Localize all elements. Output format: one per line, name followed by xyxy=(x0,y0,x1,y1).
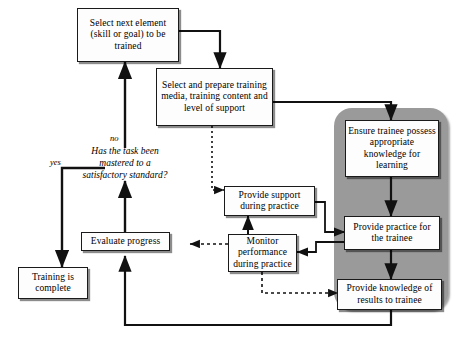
node-monitor-performance-label: Monitor performance during practice xyxy=(231,236,294,271)
node-monitor-performance[interactable]: Monitor performance during practice xyxy=(228,234,297,272)
node-evaluate-progress-label: Evaluate progress xyxy=(91,236,161,248)
edge-label-yes: yes xyxy=(50,157,61,167)
node-ensure-trainee-knowledge[interactable]: Ensure trainee possess appropriate knowl… xyxy=(345,120,439,177)
node-evaluate-progress[interactable]: Evaluate progress xyxy=(81,232,170,251)
node-training-is-complete[interactable]: Training is complete xyxy=(18,267,88,299)
node-provide-support-label: Provide support during practice xyxy=(227,190,312,213)
node-select-next-element[interactable]: Select next element (skill or goal) to b… xyxy=(77,8,179,62)
node-training-is-complete-label: Training is complete xyxy=(21,272,85,295)
decision-mastery-question: Has the task been mastered to a satisfac… xyxy=(78,145,172,181)
node-ensure-trainee-knowledge-label: Ensure trainee possess appropriate knowl… xyxy=(348,126,436,172)
node-provide-practice[interactable]: Provide practice for the trainee xyxy=(344,216,440,250)
node-select-and-prepare-media-label: Select and prepare training media, train… xyxy=(159,80,270,115)
edge-monitor-performance-to-knowledge-results-dotted xyxy=(262,272,338,293)
edge-select-media-to-provide-support-dotted xyxy=(212,126,224,190)
edge-decision-yes-to-training-complete xyxy=(62,168,105,267)
node-provide-knowledge-of-results-label: Provide knowledge of results to trainee xyxy=(340,283,439,306)
node-select-and-prepare-media[interactable]: Select and prepare training media, train… xyxy=(156,68,273,126)
node-provide-knowledge-of-results[interactable]: Provide knowledge of results to trainee xyxy=(337,279,442,310)
edge-label-no: no xyxy=(110,133,119,143)
edge-select-element-to-select-media xyxy=(179,31,220,68)
node-select-next-element-label: Select next element (skill or goal) to b… xyxy=(80,18,176,53)
node-provide-support[interactable]: Provide support during practice xyxy=(224,186,315,216)
node-provide-practice-label: Provide practice for the trainee xyxy=(347,222,437,245)
flowchart-canvas: Select next element (skill or goal) to b… xyxy=(0,0,461,341)
